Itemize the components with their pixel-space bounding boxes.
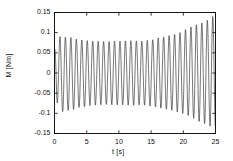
signal-line: [55, 16, 216, 127]
x-tick-label: 15: [139, 138, 163, 145]
data-series-layer: [55, 16, 216, 127]
x-axis-title: t [s]: [112, 148, 124, 155]
y-tick-label: -0.1: [21, 109, 51, 116]
x-tick-label: 20: [171, 138, 195, 145]
y-axis-title: M [Nm]: [5, 44, 12, 88]
y-tick-label: 0.1: [21, 28, 51, 35]
x-tick-label: 10: [107, 138, 131, 145]
x-tick-label: 0: [43, 138, 67, 145]
y-tick-label: 0.15: [21, 8, 51, 15]
y-tick-label: 0.05: [21, 48, 51, 55]
y-tick-label: 0: [21, 69, 51, 76]
y-tick-label: -0.05: [21, 89, 51, 96]
y-tick-label: -0.15: [21, 129, 51, 136]
x-tick-label: 25: [204, 138, 228, 145]
x-tick-label: 5: [75, 138, 99, 145]
chart-figure: M [Nm] t [s] 0.150.10.050-0.05-0.1-0.15 …: [0, 0, 233, 161]
